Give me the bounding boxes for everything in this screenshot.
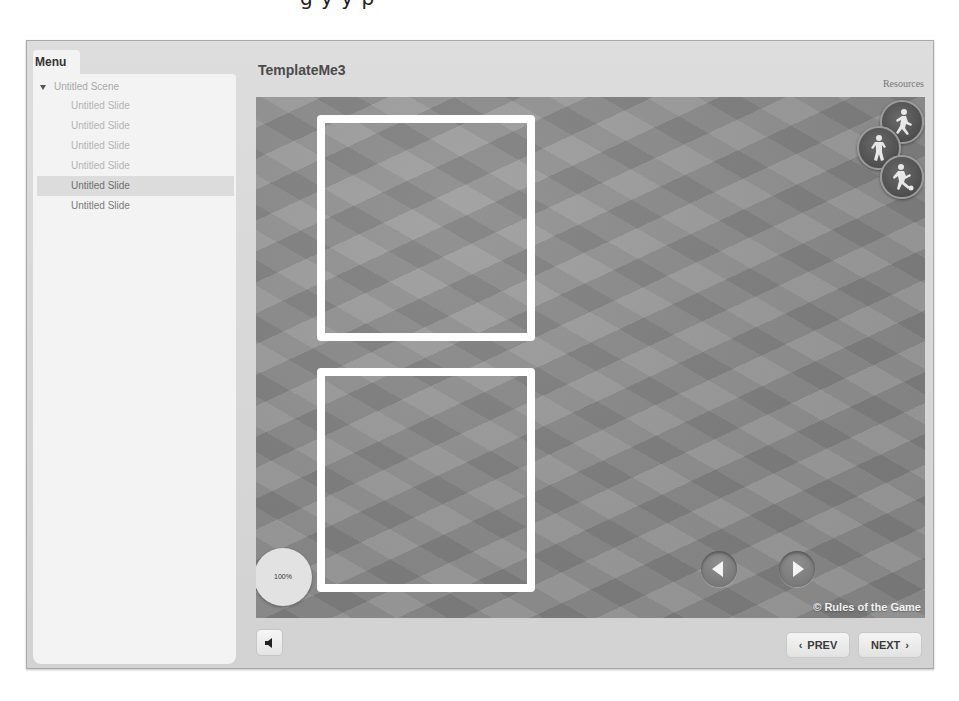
chevron-left-icon: ‹ xyxy=(799,639,803,651)
menu-scene[interactable]: Untitled Scene xyxy=(33,78,236,96)
menu-item-slide-1[interactable]: Untitled Slide xyxy=(37,96,234,116)
slide-stage: 100% © Rules of the Game xyxy=(256,97,925,618)
player-frame: Menu Untitled Scene Untitled Slide Untit… xyxy=(26,40,934,669)
menu-item-slide-6[interactable]: Untitled Slide xyxy=(37,196,234,216)
prev-button[interactable]: ‹ PREV xyxy=(786,632,850,658)
menu-item-slide-3[interactable]: Untitled Slide xyxy=(37,136,234,156)
slide-next-arrow-button[interactable] xyxy=(779,551,815,587)
expand-triangle-icon[interactable] xyxy=(40,85,46,90)
drop-box-bottom[interactable] xyxy=(317,368,535,592)
copyright-label: © Rules of the Game xyxy=(813,601,921,613)
arrow-left-icon xyxy=(712,561,723,577)
zoom-level-badge[interactable]: 100% xyxy=(256,548,312,606)
kicker-silhouette-icon xyxy=(889,162,915,192)
menu-panel: Untitled Scene Untitled Slide Untitled S… xyxy=(33,74,236,664)
menu-item-slide-5[interactable]: Untitled Slide xyxy=(37,176,234,196)
arrow-right-icon xyxy=(793,561,804,577)
next-button[interactable]: NEXT › xyxy=(858,632,922,658)
next-button-label: NEXT xyxy=(871,639,900,651)
menu-tab[interactable]: Menu xyxy=(33,50,80,75)
resources-link[interactable]: Resources xyxy=(883,78,924,89)
soccer-player-icon[interactable] xyxy=(880,155,924,199)
speaker-icon xyxy=(264,637,276,649)
menu-scene-label: Untitled Scene xyxy=(54,78,119,96)
menu-item-slide-2[interactable]: Untitled Slide xyxy=(37,116,234,136)
drop-box-top[interactable] xyxy=(317,115,535,341)
cutoff-header-text: g y y p xyxy=(300,0,959,10)
volume-button[interactable] xyxy=(256,629,283,656)
chevron-right-icon: › xyxy=(905,639,909,651)
course-title: TemplateMe3 xyxy=(258,62,346,78)
prev-button-label: PREV xyxy=(807,639,837,651)
menu-item-slide-4[interactable]: Untitled Slide xyxy=(37,156,234,176)
slide-prev-arrow-button[interactable] xyxy=(701,551,737,587)
